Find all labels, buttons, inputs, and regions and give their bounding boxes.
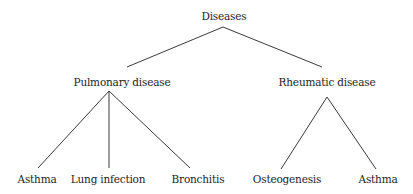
disease-tree-diagram: Diseases Pulmonary disease Rheumatic dis… xyxy=(0,0,413,194)
tree-edges xyxy=(0,0,413,194)
node-root-diseases: Diseases xyxy=(201,11,246,22)
node-leaf-bronchitis: Bronchitis xyxy=(172,174,225,185)
node-leaf-lung-infection: Lung infection xyxy=(71,174,146,185)
node-pulmonary-disease: Pulmonary disease xyxy=(74,77,171,88)
edge-diseases-to-rheumatic xyxy=(223,27,322,67)
node-leaf-asthma-rheumatic: Asthma xyxy=(359,174,398,185)
edge-rheumatic-to-asthma xyxy=(327,97,376,169)
edge-pulmonary-to-bronchitis xyxy=(109,91,190,168)
edge-diseases-to-pulmonary xyxy=(127,27,223,67)
node-leaf-asthma-pulmonary: Asthma xyxy=(18,174,57,185)
node-leaf-osteogenesis: Osteogenesis xyxy=(253,174,321,185)
edge-pulmonary-to-asthma xyxy=(38,91,109,168)
node-rheumatic-disease: Rheumatic disease xyxy=(279,77,376,88)
edge-rheumatic-to-osteogenesis xyxy=(281,97,327,169)
